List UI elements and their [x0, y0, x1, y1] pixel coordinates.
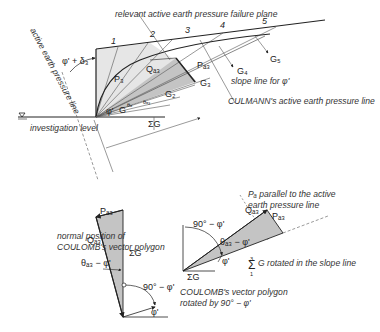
slope-line-label: slope line for φ': [231, 76, 290, 86]
top-diagram: relevant active earth pressure failure p…: [18, 9, 375, 180]
sum-bottom: 1: [250, 271, 253, 277]
pa3-label-normal: Pₐ₃: [100, 206, 113, 216]
sumg-label-rotated: ΣG: [187, 272, 200, 282]
ground-surface-line: [96, 20, 325, 49]
normal-caption-2: COULOMB's vector polygon: [57, 242, 165, 252]
rotated-caption-1: COULOMB's vector polygon: [180, 287, 288, 297]
weight-g2: G₂: [165, 89, 176, 99]
qa3-label-rotated: Qₐ₃: [245, 205, 259, 215]
weight-g3: G₃: [200, 78, 211, 88]
sumg-label-normal: ΣG: [129, 248, 142, 258]
level-triangle-icon: [19, 113, 25, 117]
p3-label: P₃: [114, 74, 124, 84]
theta-label-rotated: θₐ₃ − φ': [220, 237, 250, 247]
pa3-label-rotated: Pₐ₃: [272, 211, 285, 221]
wedge-number-4: 4: [220, 20, 225, 30]
investigation-level-label: investigation level: [30, 123, 99, 133]
phi-label-normal: φ': [151, 307, 159, 317]
culmann-label: CULMANN's active earth pressure line: [228, 96, 375, 106]
rotated-caption-2: rotated by 90° − φ': [180, 298, 251, 308]
phi-label: φ': [106, 106, 114, 116]
weight-g4: G₄: [237, 66, 248, 76]
failure-plane-label: relevant active earth pressure failure p…: [115, 9, 278, 19]
phi-label-rotated: φ': [222, 256, 230, 266]
sum-symbol: Σ: [248, 258, 255, 272]
sum-rotated-label: G rotated in the slope line: [258, 258, 356, 268]
qa3-label: Qₐ₃: [146, 64, 160, 74]
culmann-diagram: relevant active earth pressure failure p…: [0, 0, 380, 332]
theta-a3-label: θₐ₃: [143, 99, 150, 105]
wedge-number-3: 3: [185, 25, 190, 35]
weight-g5: G₅: [270, 54, 281, 64]
angle-90-label-rotated: 90° − φ': [193, 219, 225, 229]
active-line-label: active earth pressure line: [28, 26, 82, 116]
wedge-number-2: 2: [149, 29, 155, 39]
qa3-label-normal: Qₐ₃: [87, 235, 101, 245]
g-label: G: [119, 105, 126, 115]
angle-wall-label: φ' + δ₃: [62, 56, 89, 66]
coulomb-polygon-rotated: Pₐ parallel to the active earth pressure…: [180, 189, 356, 308]
sum-g-label: ΣG: [148, 119, 161, 129]
pa3-label: Pₐ₃: [197, 60, 210, 70]
angle-90-label-normal: 90° − φ': [143, 282, 175, 292]
pa-note-1: Pₐ parallel to the active: [248, 189, 336, 199]
wedge-number-1: 1: [111, 36, 116, 46]
coulomb-polygon-normal: normal position of COULOMB's vector poly…: [57, 206, 175, 317]
theta-label-normal: θₐ₃ − φ': [81, 258, 111, 268]
